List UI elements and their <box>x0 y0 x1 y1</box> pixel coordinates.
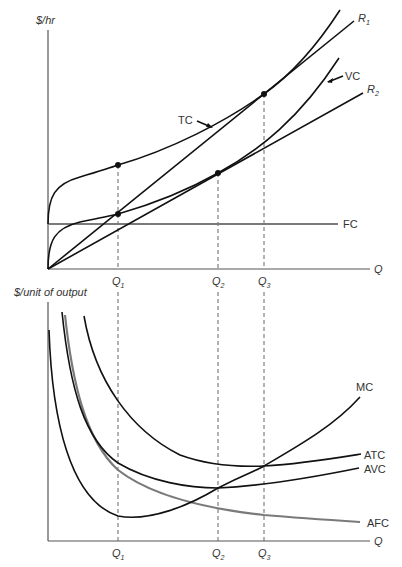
bottom-panel: $/unit of output Q AFC AVC ATC MC Q1 Q2 … <box>13 286 389 561</box>
top-y-axis-label: $/hr <box>35 14 56 26</box>
top-panel: $/hr Q FC R1 R2 VC TC Q1 Q2 <box>35 10 383 289</box>
vc-r1-intersection-point <box>115 211 121 217</box>
atc-label: ATC <box>364 449 385 461</box>
r2-label: R2 <box>367 83 379 97</box>
bottom-q3-label: Q3 <box>258 547 271 561</box>
r2-line <box>48 93 363 269</box>
bottom-x-axis-label: Q <box>374 535 383 547</box>
top-x-axis-label: Q <box>374 263 383 275</box>
avc-label: AVC <box>364 463 386 475</box>
bottom-q1-label: Q1 <box>112 547 125 561</box>
mc-label: MC <box>356 381 373 393</box>
vc-r2-tangent-point <box>215 170 221 176</box>
r1-label: R1 <box>358 12 370 26</box>
tc-curve <box>48 10 340 224</box>
afc-label: AFC <box>367 517 389 529</box>
tc-r1-tangent-point <box>261 91 267 97</box>
fc-label: FC <box>343 218 358 230</box>
tc-label: TC <box>178 114 193 126</box>
top-q3-label: Q3 <box>258 275 271 289</box>
vc-label: VC <box>345 70 360 82</box>
vc-arrow-head <box>327 78 333 83</box>
cost-curves-diagram: $/hr Q FC R1 R2 VC TC Q1 Q2 <box>0 0 402 567</box>
atc-curve <box>84 316 361 466</box>
bottom-q2-label: Q2 <box>212 547 225 561</box>
top-q1-label: Q1 <box>112 275 125 289</box>
tc-q1-point <box>115 162 121 168</box>
bottom-y-axis-label: $/unit of output <box>13 286 88 298</box>
top-q2-label: Q2 <box>212 275 225 289</box>
r1-line <box>48 21 354 269</box>
vc-curve <box>48 58 339 269</box>
